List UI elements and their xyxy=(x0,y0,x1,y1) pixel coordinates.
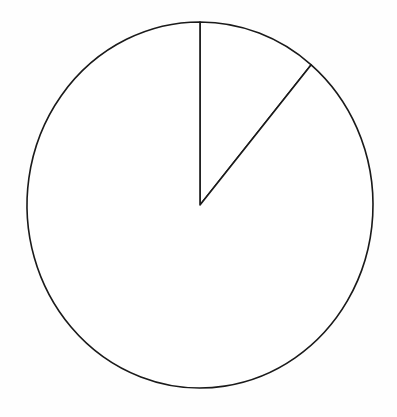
pie-slices-group xyxy=(27,22,373,388)
pie-chart-figure xyxy=(0,0,397,417)
pie-chart-svg xyxy=(0,0,397,417)
pie-slice-2[interactable] xyxy=(27,22,373,388)
